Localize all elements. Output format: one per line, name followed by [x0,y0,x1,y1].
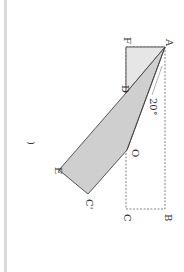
folded-rectangle-diagram: 20° A F D O C B E C' ) [0,0,184,272]
label-E: E [53,167,64,174]
folded-flap [59,47,165,194]
label-D: D [120,85,131,93]
label-A: A [164,38,175,47]
angle-label: 20° [148,98,159,116]
answer-paren: ) [26,141,37,145]
label-O: O [130,149,141,157]
label-C-prime: C' [84,199,95,209]
label-B: B [163,214,174,221]
label-C: C [122,214,133,222]
label-F: F [122,37,133,44]
